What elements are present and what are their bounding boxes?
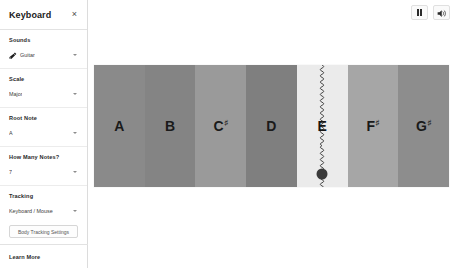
chevron-down-icon xyxy=(73,54,77,56)
page-title: Keyboard xyxy=(9,10,51,20)
section-label-tracking: Tracking xyxy=(9,193,78,199)
chevron-down-icon xyxy=(73,171,77,173)
chevron-down-icon xyxy=(73,210,77,212)
key-e[interactable]: E xyxy=(297,65,348,187)
cursor-dot[interactable] xyxy=(317,168,328,179)
pause-icon xyxy=(417,9,422,16)
root-note-dropdown[interactable]: A xyxy=(9,128,78,138)
key-a[interactable]: A xyxy=(94,65,145,187)
key-label: B xyxy=(165,119,175,133)
chevron-down-icon xyxy=(73,93,77,95)
speaker-icon xyxy=(437,4,447,22)
key-c-sharp[interactable]: C♯ xyxy=(195,65,246,187)
settings-sidebar: Keyboard × Sounds Guitar xyxy=(0,0,88,268)
key-label: D xyxy=(266,119,276,133)
section-how-many-notes: How Many Notes? 7 xyxy=(0,147,87,186)
keyboard-app-window: Keyboard × Sounds Guitar xyxy=(0,0,455,268)
section-sounds: Sounds Guitar xyxy=(0,30,87,69)
section-root-note: Root Note A xyxy=(0,108,87,147)
scale-value: Major xyxy=(9,91,22,97)
body-tracking-settings-button[interactable]: Body Tracking Settings xyxy=(9,225,78,238)
keyboard-strip[interactable]: ABC♯DEF♯G♯ xyxy=(94,65,449,187)
chevron-down-icon xyxy=(73,132,77,134)
panel-header: Keyboard × xyxy=(0,0,87,30)
sounds-dropdown[interactable]: Guitar xyxy=(9,50,78,60)
tracking-dropdown[interactable]: Keyboard / Mouse xyxy=(9,206,78,216)
key-d[interactable]: D xyxy=(246,65,297,187)
section-label-sounds: Sounds xyxy=(9,37,78,43)
section-tracking: Tracking Keyboard / Mouse Body Tracking … xyxy=(0,186,87,246)
tracking-value: Keyboard / Mouse xyxy=(9,208,53,214)
root-note-value: A xyxy=(9,130,13,136)
close-icon[interactable]: × xyxy=(69,9,80,20)
playback-toolbar xyxy=(411,5,450,20)
key-label: F♯ xyxy=(366,119,379,133)
sounds-value: Guitar xyxy=(20,52,35,58)
key-g-sharp[interactable]: G♯ xyxy=(398,65,449,187)
section-scale: Scale Major xyxy=(0,69,87,108)
scale-dropdown[interactable]: Major xyxy=(9,89,78,99)
how-many-notes-value: 7 xyxy=(9,169,12,175)
key-b[interactable]: B xyxy=(145,65,196,187)
main-canvas: ABC♯DEF♯G♯ xyxy=(88,0,455,268)
volume-button[interactable] xyxy=(433,5,450,20)
key-f-sharp[interactable]: F♯ xyxy=(348,65,399,187)
key-label: A xyxy=(114,119,124,133)
key-label: C♯ xyxy=(213,119,228,133)
section-label-root-note: Root Note xyxy=(9,115,78,121)
section-label-scale: Scale xyxy=(9,76,78,82)
guitar-icon xyxy=(9,46,17,64)
how-many-notes-dropdown[interactable]: 7 xyxy=(9,167,78,177)
learn-more-link[interactable]: Learn More xyxy=(9,254,40,260)
sidebar-footer: Learn More xyxy=(0,244,88,268)
key-label: G♯ xyxy=(416,119,431,133)
key-label: E xyxy=(317,119,327,133)
pause-button[interactable] xyxy=(411,5,428,20)
section-label-how-many-notes: How Many Notes? xyxy=(9,154,78,160)
